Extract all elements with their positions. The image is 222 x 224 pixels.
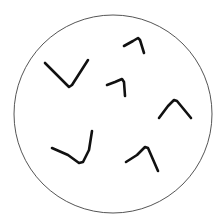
strokes-group — [45, 38, 191, 171]
diagram-canvas — [0, 0, 222, 224]
stroke-2-hook-mark — [124, 38, 144, 53]
diagram-svg — [0, 0, 222, 224]
outer-circle — [14, 15, 212, 213]
stroke-1-v-mark — [45, 60, 88, 87]
stroke-4-caret-mark — [159, 100, 191, 118]
stroke-6-hook-mark — [126, 147, 158, 171]
stroke-5-check-mark — [52, 131, 92, 163]
stroke-3-hook-mark — [107, 79, 125, 96]
